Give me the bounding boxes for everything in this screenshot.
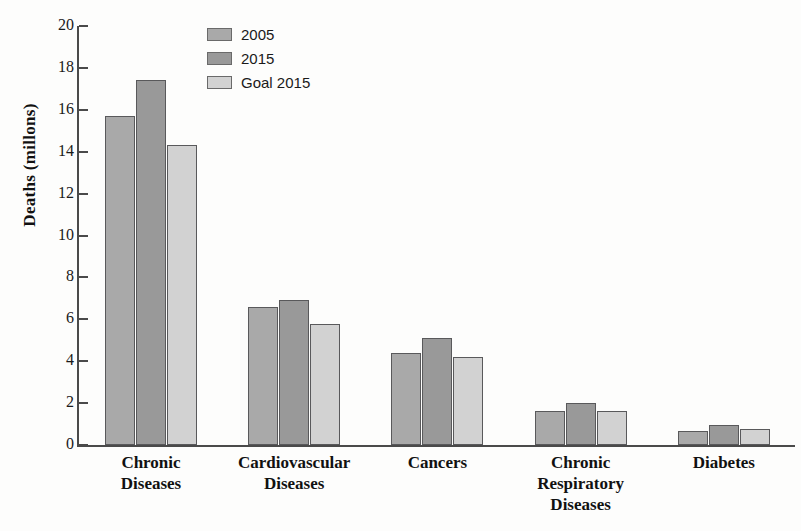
legend-label: Goal 2015: [241, 74, 310, 91]
y-axis-tick-label: 14: [58, 141, 74, 161]
bar[interactable]: [391, 353, 421, 445]
legend-label: 2005: [241, 26, 274, 43]
legend-swatch: [207, 52, 232, 65]
bar[interactable]: [709, 425, 739, 445]
bar[interactable]: [310, 324, 340, 446]
legend-item[interactable]: 2015: [207, 46, 310, 70]
bar[interactable]: [740, 429, 770, 445]
x-axis-category-label-line: Diabetes: [629, 452, 801, 473]
y-axis-tick-label: 16: [58, 99, 74, 119]
y-axis-tick-label: 18: [58, 57, 74, 77]
bar[interactable]: [248, 307, 278, 445]
bar[interactable]: [535, 411, 565, 445]
bar[interactable]: [167, 145, 197, 445]
y-axis-tick-label: 12: [58, 183, 74, 203]
x-axis-category-label-line: Diseases: [486, 494, 676, 515]
y-axis-tick-label: 20: [58, 15, 74, 35]
legend: 20052015Goal 2015: [207, 22, 310, 94]
y-axis-tick-label: 8: [66, 266, 74, 286]
legend-label: 2015: [241, 50, 274, 67]
x-axis-line: [77, 445, 795, 447]
x-axis-category-label-line: Respiratory: [486, 473, 676, 494]
legend-swatch: [207, 76, 232, 89]
bar-group: [678, 26, 770, 445]
x-axis-category-label: Diabetes: [629, 452, 801, 473]
bar[interactable]: [279, 300, 309, 445]
bar-group: [535, 26, 627, 445]
bar[interactable]: [597, 411, 627, 445]
bar-chart: Deaths (millons) 20181614121086420 Chron…: [0, 0, 801, 531]
y-axis-tick-label: 2: [66, 392, 74, 412]
y-axis-tick-label: 10: [58, 225, 74, 245]
legend-item[interactable]: 2005: [207, 22, 310, 46]
bar-group: [391, 26, 483, 445]
bar[interactable]: [105, 116, 135, 445]
legend-item[interactable]: Goal 2015: [207, 70, 310, 94]
x-axis-category-label-line: Diseases: [199, 473, 389, 494]
bar-group: [105, 26, 197, 445]
bar[interactable]: [422, 338, 452, 445]
plot-area: [79, 26, 795, 445]
legend-swatch: [207, 28, 232, 41]
y-axis-tick-label: 0: [66, 434, 74, 454]
bar[interactable]: [453, 357, 483, 445]
bar[interactable]: [136, 80, 166, 445]
bar[interactable]: [566, 403, 596, 445]
y-axis-tick-label: 4: [66, 350, 74, 370]
bar[interactable]: [678, 431, 708, 445]
y-axis-title: Deaths (millons): [20, 55, 40, 275]
y-axis-tick-label: 6: [66, 308, 74, 328]
